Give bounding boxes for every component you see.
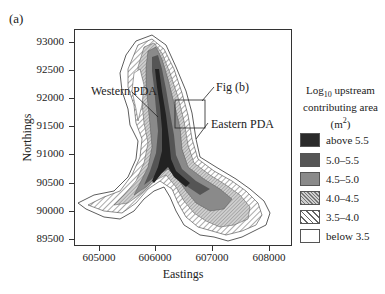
legend-title-upstream: upstream — [332, 84, 375, 96]
y-tick-label: 92500 — [6, 63, 64, 75]
legend-title-log: Log — [306, 84, 324, 96]
legend-swatch-above-5-5 — [300, 133, 320, 147]
legend-item: above 5.5 — [300, 132, 369, 148]
x-axis-label: Eastings — [143, 267, 223, 282]
legend-label: 4.5–5.0 — [326, 173, 359, 185]
x-tick-label: 608000 — [239, 251, 299, 263]
legend-item: below 3.5 — [300, 228, 369, 244]
legend-swatch-5-0-5-5 — [300, 153, 320, 167]
legend-item: 5.0–5.5 — [300, 152, 359, 168]
legend-title-unit-close: ) — [347, 118, 351, 130]
legend-swatch-3-5-4-0 — [300, 210, 320, 224]
legend-title-sub: 10 — [324, 90, 332, 99]
y-tick-label: 91500 — [6, 119, 64, 131]
y-tick-label: 91000 — [6, 147, 64, 159]
x-tick-label: 605000 — [69, 251, 129, 263]
annotation-western-pda: Western PDA — [91, 84, 157, 99]
legend-item: 3.5–4.0 — [300, 209, 359, 225]
contributing-area-map — [74, 29, 292, 246]
legend-title-line2: contributing area — [296, 101, 385, 114]
legend-item: 4.5–5.0 — [300, 171, 359, 187]
legend-item: 4.0–4.5 — [300, 190, 359, 206]
legend-label: 3.5–4.0 — [326, 211, 359, 223]
panel-label: (a) — [9, 11, 23, 27]
legend-label: 4.0–4.5 — [326, 192, 359, 204]
y-tick-label: 93000 — [6, 35, 64, 47]
legend-label: above 5.5 — [326, 134, 369, 146]
legend-label: 5.0–5.5 — [326, 154, 359, 166]
y-tick-label: 90000 — [6, 204, 64, 216]
x-tick-label: 606000 — [125, 251, 185, 263]
y-tick-label: 90500 — [6, 176, 64, 188]
legend-swatch-below-3-5 — [300, 229, 320, 243]
x-tick-label: 607000 — [182, 251, 242, 263]
y-axis-label: Northings — [20, 103, 35, 173]
legend-swatch-4-0-4-5 — [300, 191, 320, 205]
legend-title-unit: (m — [331, 118, 343, 130]
y-tick-label: 92000 — [6, 91, 64, 103]
y-tick-label: 89500 — [6, 232, 64, 244]
legend-title: Log10 upstream contributing area (m2) — [296, 84, 385, 131]
legend-swatch-4-5-5-0 — [300, 172, 320, 186]
legend-label: below 3.5 — [326, 230, 369, 242]
annotation-eastern-pda: Eastern PDA — [211, 117, 274, 132]
annotation-fig-b: Fig (b) — [216, 80, 249, 95]
